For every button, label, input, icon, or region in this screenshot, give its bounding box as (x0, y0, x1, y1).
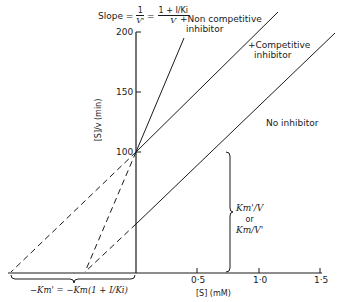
slope-label: Slope = 1 V' = 1 + I/Ki V (98, 6, 189, 25)
brace-bottom-label: −Km' = −Km(1 + I/Ki) (30, 285, 128, 295)
noncompetitive-label-line1: +Non competitive (180, 14, 262, 24)
competitive-label: +Competitive inhibitor (248, 40, 310, 60)
y-tick-label-100: 100 (116, 147, 133, 157)
no-inhibitor-label: No inhibitor (266, 118, 318, 128)
bottom-brace (11, 275, 135, 283)
brace-right-label: Km'/V or Km/V' (236, 203, 263, 236)
y-axis-label: [S]/v (min) (94, 99, 104, 142)
slope-frac1-num: 1 (136, 6, 144, 16)
slope-frac1-den: V' (136, 16, 144, 25)
noncompetitive-extrapolation (85, 152, 136, 272)
brace-right-line3: Km/V' (236, 225, 263, 236)
y-tick-label-150: 150 (116, 87, 133, 97)
competitive-label-line1: +Competitive (248, 40, 310, 50)
competitive-label-line2: inhibitor (248, 50, 310, 60)
x-tick-label-1.5: 1·5 (314, 275, 328, 285)
right-brace (226, 152, 233, 272)
no-inhibitor-line (136, 33, 335, 224)
slope-equals: = (147, 11, 155, 21)
competitive-extrapolation (11, 152, 136, 272)
no-inhibitor-label-line1: No inhibitor (266, 118, 318, 128)
noncompetitive-line (136, 38, 184, 152)
noncompetitive-label: +Non competitive inhibitor (180, 14, 262, 34)
x-tick-label-0.5: 0·5 (191, 275, 205, 285)
brace-right-line1: Km'/V (236, 203, 263, 214)
noncompetitive-label-line2: inhibitor (180, 24, 262, 34)
y-tick-label-200: 200 (116, 27, 133, 37)
brace-right-line2: or (236, 214, 263, 225)
x-tick-label-1.0: 1·0 (253, 275, 267, 285)
slope-prefix: Slope = (98, 11, 133, 21)
no-inhibitor-extrapolation (85, 224, 136, 272)
x-axis-label: [S] (mM) (196, 289, 231, 299)
